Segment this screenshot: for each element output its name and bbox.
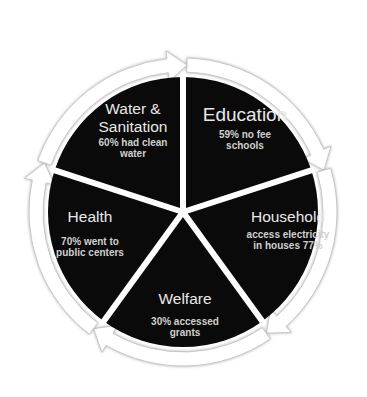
- segment-title: Health: [40, 208, 140, 226]
- segment-detail: schools: [190, 140, 300, 152]
- segment-label-health: Health 70% went to public centers: [40, 208, 140, 259]
- segment-detail: 60% had clean: [78, 137, 188, 149]
- segment-detail: in houses 77%: [228, 240, 348, 252]
- segment-label-education: Education 59% no fee schools: [190, 104, 300, 152]
- segment-detail: water: [78, 148, 188, 160]
- segment-title: Water &: [78, 100, 188, 118]
- segment-detail: 30% accessed: [130, 316, 240, 328]
- segment-label-water-sanitation: Water & Sanitation 60% had clean water: [78, 100, 188, 160]
- segment-title: Education: [190, 104, 300, 126]
- segment-label-welfare: Welfare 30% accessed grants: [130, 290, 240, 339]
- segment-label-household: Household access electricity in houses 7…: [228, 208, 348, 252]
- segment-detail: grants: [130, 327, 240, 339]
- segment-title: Welfare: [130, 290, 240, 308]
- segment-detail: access electricity: [228, 229, 348, 241]
- segment-detail: public centers: [40, 247, 140, 259]
- segment-detail: 59% no fee: [190, 129, 300, 141]
- segment-title: Sanitation: [78, 118, 188, 136]
- segment-title: Household: [228, 208, 348, 226]
- segment-detail: 70% went to: [40, 236, 140, 248]
